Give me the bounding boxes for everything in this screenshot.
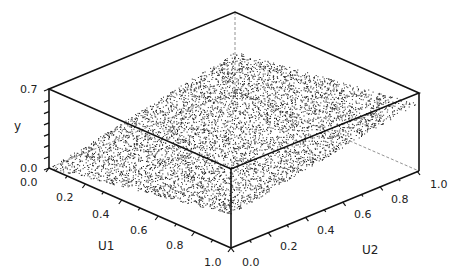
y-tick-min: 0.0 <box>20 162 38 175</box>
u1-tick-2: 0.4 <box>92 208 110 221</box>
u1-tick-4: 0.8 <box>166 239 184 252</box>
u1-axis-title: U1 <box>98 239 114 253</box>
u2-tick-2: 0.4 <box>317 224 335 237</box>
axis-ticks <box>44 89 420 252</box>
y-tick-max: 0.7 <box>20 83 38 96</box>
u2-axis-title: U2 <box>362 243 378 257</box>
u1-tick-5: 1.0 <box>204 256 222 269</box>
u2-tick-0: 0.0 <box>242 256 260 269</box>
box-back-edges <box>49 12 419 171</box>
y-axis-labels: 0.7 0.0 y <box>14 83 38 175</box>
scatter-3d-plot: 0.7 0.0 y 0.0 0.2 0.4 0.6 0.8 1.0 U1 0.0… <box>0 0 454 277</box>
u2-tick-1: 0.2 <box>280 240 298 253</box>
u1-tick-1: 0.2 <box>56 191 74 204</box>
u1-tick-0: 0.0 <box>20 176 38 189</box>
u1-tick-3: 0.6 <box>130 224 148 237</box>
u2-tick-3: 0.6 <box>354 208 372 221</box>
u2-axis-labels: 0.0 0.2 0.4 0.6 0.8 1.0 U2 <box>242 178 448 269</box>
u2-tick-4: 0.8 <box>391 193 409 206</box>
y-axis-title: y <box>14 119 21 133</box>
u2-tick-5: 1.0 <box>430 178 448 191</box>
scatter-points <box>53 53 416 214</box>
u1-axis-labels: 0.0 0.2 0.4 0.6 0.8 1.0 U1 <box>20 176 222 269</box>
